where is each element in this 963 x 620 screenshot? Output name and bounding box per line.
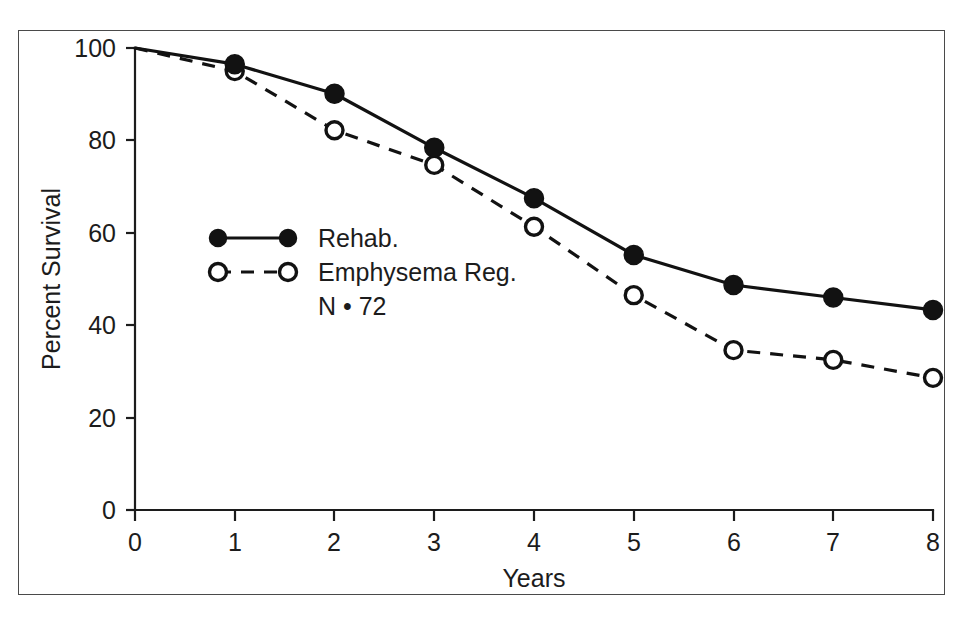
data-point — [325, 84, 344, 103]
x-tick-label-0: 0 — [128, 528, 142, 556]
y-tick-label-20: 20 — [88, 404, 116, 432]
y-tick-label-80: 80 — [88, 126, 116, 154]
data-point — [326, 122, 343, 139]
data-point — [625, 287, 642, 304]
y-tick-label-100: 100 — [74, 34, 116, 62]
data-point — [225, 55, 244, 74]
data-point — [925, 369, 942, 386]
data-point — [425, 138, 444, 157]
legend-marker-filled-right — [280, 230, 297, 247]
x-tick-marks — [135, 510, 933, 521]
legend-label-emphysema-reg: Emphysema Reg. — [318, 258, 517, 286]
survival-curve-chart: 100 80 60 40 20 0 0 1 2 3 4 5 6 7 8 Year… — [0, 0, 963, 620]
x-tick-label-4: 4 — [527, 528, 541, 556]
x-tick-label-7: 7 — [826, 528, 840, 556]
data-point — [426, 156, 443, 173]
figure-root: 100 80 60 40 20 0 0 1 2 3 4 5 6 7 8 Year… — [0, 0, 963, 620]
legend-marker-open-right — [280, 264, 297, 281]
data-point — [924, 300, 943, 319]
data-point — [824, 288, 843, 307]
x-tick-label-5: 5 — [627, 528, 641, 556]
data-point — [725, 342, 742, 359]
legend-marker-filled-left — [210, 230, 227, 247]
y-axis-title: Percent Survival — [37, 188, 65, 370]
legend-marker-open-left — [210, 264, 227, 281]
series-line-rehab — [135, 48, 933, 310]
x-tick-label-8: 8 — [926, 528, 940, 556]
legend: Rehab. Emphysema Reg. N • 72 — [210, 224, 517, 320]
x-axis-title: Years — [502, 564, 565, 592]
legend-note-sample-size: N • 72 — [318, 292, 387, 320]
data-point — [526, 218, 543, 235]
data-point — [525, 189, 544, 208]
x-tick-label-3: 3 — [427, 528, 441, 556]
data-point — [624, 245, 643, 264]
x-tick-label-6: 6 — [727, 528, 741, 556]
y-tick-marks — [126, 48, 135, 510]
x-tick-label-2: 2 — [327, 528, 341, 556]
legend-label-rehab: Rehab. — [318, 224, 399, 252]
data-point — [724, 276, 743, 295]
y-tick-label-60: 60 — [88, 219, 116, 247]
series-line-emphysema-reg — [135, 48, 933, 378]
data-point — [825, 351, 842, 368]
y-tick-label-0: 0 — [102, 496, 116, 524]
y-tick-label-40: 40 — [88, 311, 116, 339]
legend-swatch-rehab — [210, 230, 297, 247]
x-tick-label-1: 1 — [228, 528, 242, 556]
legend-swatch-emphysema-reg — [210, 264, 297, 281]
